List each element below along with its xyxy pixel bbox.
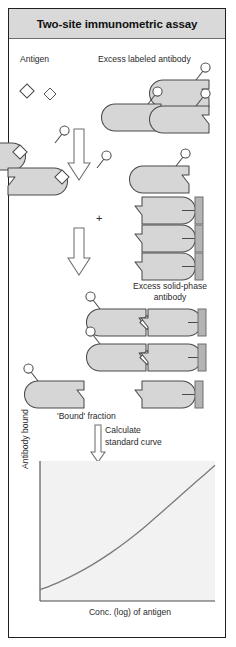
standard-curve-chart — [0, 0, 236, 647]
chart-plot-area — [40, 461, 215, 601]
figure-panel: Two-site immunometric assay Antigen Exce… — [0, 0, 236, 647]
